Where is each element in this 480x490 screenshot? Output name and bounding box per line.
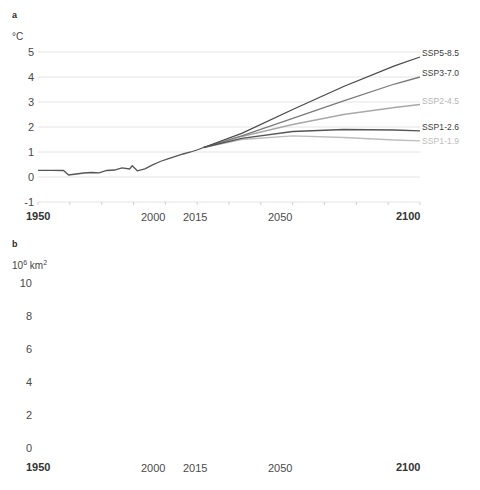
panel-b-sea-ice: b 106 km2 10 8 6 4 2 0 xyxy=(0,235,480,490)
panel-a-svg xyxy=(38,52,420,202)
panel-b-unit-sup2: 2 xyxy=(43,259,47,266)
panel-a-ytick-2: 2 xyxy=(8,121,34,133)
panel-b-unit-pre: 10 xyxy=(12,260,23,271)
panel-b-ytick-4: 4 xyxy=(6,376,32,388)
panel-a-letter: a xyxy=(12,10,17,20)
panel-a-xtick-2050: 2050 xyxy=(268,211,292,223)
panel-a-ytick-3: 3 xyxy=(8,96,34,108)
panel-b-xtick-1950: 1950 xyxy=(26,461,50,473)
legend-a-ssp1-1.9: SSP1-1.9 xyxy=(422,136,459,146)
panel-b-ytick-0: 0 xyxy=(6,442,32,454)
panel-a-ytick-0: 0 xyxy=(8,171,34,183)
panel-b-letter: b xyxy=(12,239,18,249)
panel-a-ytick-5: 5 xyxy=(8,46,34,58)
panel-b-xtick-2100: 2100 xyxy=(396,461,420,473)
panel-a-plot-area xyxy=(38,52,420,202)
panel-b-ytick-8: 8 xyxy=(6,310,32,322)
legend-a-ssp5-8.5: SSP5-8.5 xyxy=(422,48,459,58)
panel-a-xtick-2000: 2000 xyxy=(141,211,165,223)
panel-a-xtick-2100: 2100 xyxy=(396,210,420,222)
legend-a-ssp2-4.5: SSP2-4.5 xyxy=(422,96,459,106)
panel-a-ytick-4: 4 xyxy=(8,71,34,83)
panel-a-gridlines xyxy=(38,52,420,202)
panel-b-ytick-10: 10 xyxy=(6,277,32,289)
panel-a-xtick-1950: 1950 xyxy=(26,210,50,222)
panel-b-xtick-2050: 2050 xyxy=(268,462,292,474)
panel-b-xtick-2015: 2015 xyxy=(183,462,207,474)
panel-a-xtick-2015: 2015 xyxy=(183,211,207,223)
panel-a-ytick-neg1: -1 xyxy=(8,196,34,208)
panel-b-ytick-2: 2 xyxy=(6,409,32,421)
panel-b-unit-post: km xyxy=(27,260,43,271)
panel-a-ytick-1: 1 xyxy=(8,146,34,158)
panel-b-ytick-6: 6 xyxy=(6,343,32,355)
panel-a-temperature: a °C 5 4 3 2 1 0 -1 xyxy=(0,0,480,240)
panel-b-unit-label: 106 km2 xyxy=(12,259,47,271)
legend-a-ssp3-7.0: SSP3-7.0 xyxy=(422,68,459,78)
legend-a-ssp1-2.6: SSP1-2.6 xyxy=(422,122,459,132)
panel-b-xtick-2000: 2000 xyxy=(141,462,165,474)
panel-a-unit-label: °C xyxy=(12,31,23,42)
